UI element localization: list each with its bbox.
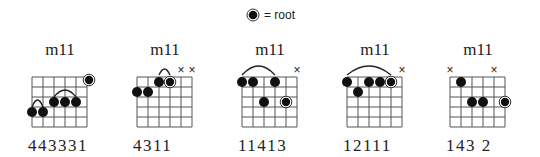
barre-arc	[242, 66, 275, 75]
finger-dot-icon	[467, 97, 477, 107]
finger-dot-icon	[143, 87, 153, 97]
root-legend: = root	[246, 8, 295, 22]
muted-string-icon: ×	[188, 63, 195, 77]
finger-dot-icon	[270, 77, 280, 87]
finger-dot-icon	[342, 77, 352, 87]
barre-arc	[159, 69, 170, 75]
finger-dot-icon	[375, 77, 385, 87]
fretboard-grid: ××	[125, 40, 205, 135]
muted-string-icon: ×	[446, 63, 453, 77]
finger-dot-icon	[259, 97, 269, 107]
fretboard-grid	[20, 40, 100, 135]
finger-dot-icon	[60, 97, 70, 107]
finger-dot-icon	[237, 77, 247, 87]
muted-string-icon: ×	[490, 63, 497, 77]
finger-dot-icon	[364, 77, 374, 87]
fretboard-grid: ××	[438, 40, 518, 135]
barre-arc	[32, 100, 43, 107]
barre-arc	[347, 66, 391, 75]
fretboard-grid: ×	[230, 40, 310, 135]
finger-dot-icon	[132, 87, 142, 97]
finger-dot-icon	[248, 77, 258, 87]
finger-dot-icon	[456, 77, 466, 87]
fingering-numbers: 12111	[343, 136, 392, 156]
fingering-numbers: 11413	[238, 136, 287, 156]
finger-dot-icon	[27, 107, 37, 117]
legend-label: = root	[264, 8, 295, 22]
fingering-numbers: 143 2	[446, 136, 492, 156]
root-dot-icon	[246, 8, 260, 22]
fingering-numbers: 443331	[28, 136, 88, 156]
fingering-numbers: 4311	[133, 136, 172, 156]
finger-dot-icon	[71, 97, 81, 107]
finger-dot-icon	[38, 107, 48, 117]
finger-dot-icon	[49, 97, 59, 107]
muted-string-icon: ×	[177, 63, 184, 77]
finger-dot-icon	[353, 87, 363, 97]
finger-dot-icon	[154, 77, 164, 87]
muted-string-icon: ×	[293, 63, 300, 77]
finger-dot-icon	[478, 97, 488, 107]
muted-string-icon: ×	[398, 63, 405, 77]
fretboard-grid: ×	[335, 40, 415, 135]
